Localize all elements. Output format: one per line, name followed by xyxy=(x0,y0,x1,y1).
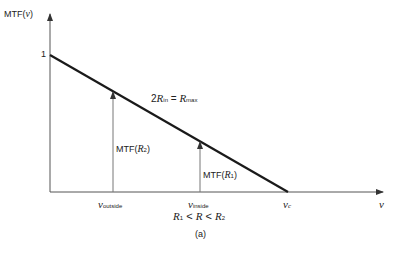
x-axis-label: ν xyxy=(379,199,384,210)
x-tick-outside: νoutside xyxy=(98,199,122,210)
line-label: 2Rin = Rmax xyxy=(151,93,197,104)
x-tick-inside: νinside xyxy=(188,199,209,210)
mtf-r2-label: MTF(R2) xyxy=(116,144,150,154)
x-tick-cutoff: νc xyxy=(283,199,291,210)
y-axis-label: MTF(ν) xyxy=(4,9,33,19)
y-tick-1: 1 xyxy=(41,50,46,59)
condition-label: R1 < R < R2 xyxy=(173,211,225,222)
caption: (a) xyxy=(195,230,206,239)
mtf-line xyxy=(50,55,288,192)
mtf-r1-label: MTF(R1) xyxy=(203,170,237,180)
